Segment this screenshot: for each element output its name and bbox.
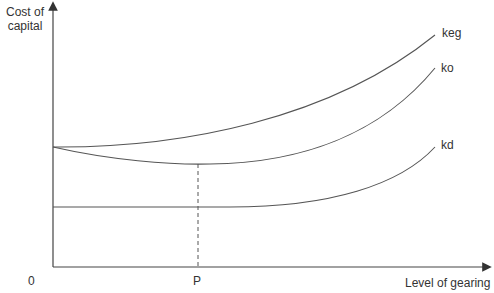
cost-of-capital-diagram (0, 0, 494, 293)
keg-curve (53, 35, 435, 147)
y-axis-label-line1: Cost of (2, 5, 48, 19)
kd-curve (53, 147, 435, 207)
y-axis-label: Cost of capital (2, 5, 48, 33)
kd-label: kd (441, 138, 454, 152)
origin-label: 0 (28, 274, 35, 288)
ko-curve (53, 68, 435, 164)
keg-label: keg (442, 26, 461, 40)
y-axis-label-line2: capital (2, 19, 48, 33)
ko-label: ko (441, 61, 454, 75)
x-axis-label: Level of gearing (405, 276, 490, 290)
p-label: P (193, 274, 201, 288)
